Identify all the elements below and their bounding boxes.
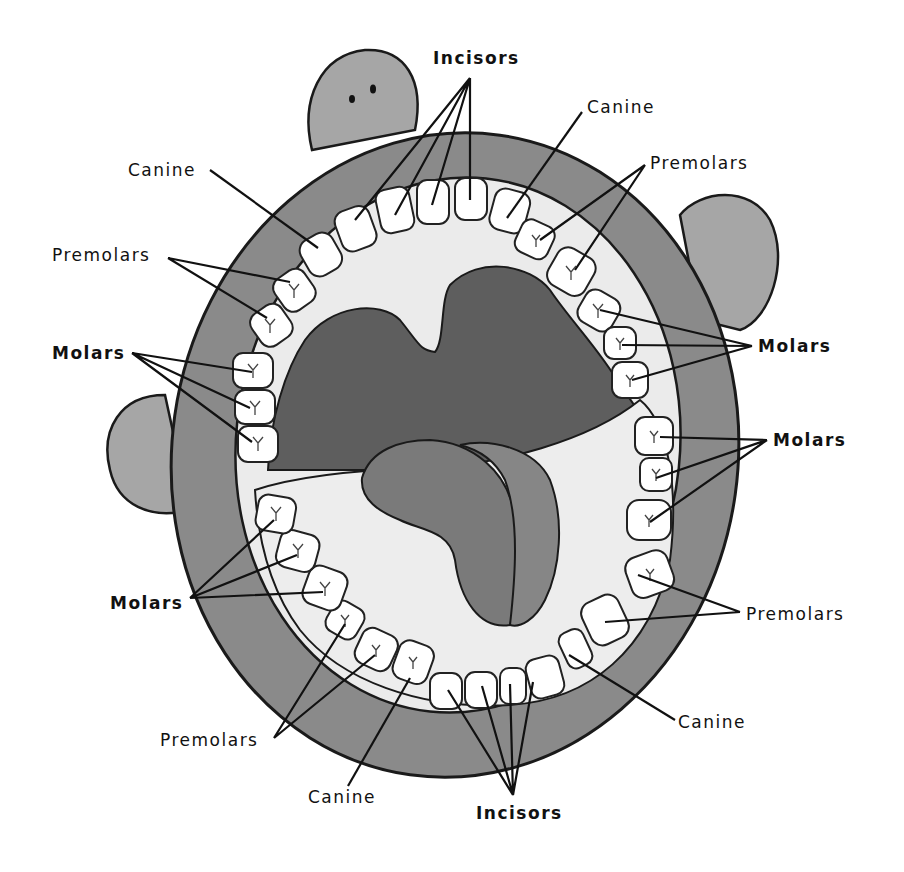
label-lower-left-canine: Canine bbox=[308, 787, 376, 807]
label-upper-right-molars: Molars bbox=[758, 336, 831, 356]
tooth bbox=[500, 668, 526, 704]
tooth bbox=[465, 672, 497, 708]
label-lower-left-molars: Molars bbox=[110, 593, 183, 613]
label-upper-left-canine: Canine bbox=[128, 160, 196, 180]
label-lower-right-premolars: Premolars bbox=[746, 604, 844, 624]
label-upper-left-molars: Molars bbox=[52, 343, 125, 363]
label-upper-right-canine: Canine bbox=[587, 97, 655, 117]
label-upper-left-premolars: Premolars bbox=[52, 245, 150, 265]
label-upper-incisors: Incisors bbox=[433, 48, 520, 68]
label-lower-right-canine: Canine bbox=[678, 712, 746, 732]
mouth-teeth-diagram: Incisors Canine Canine Premolars Premola… bbox=[0, 0, 904, 872]
top-bump bbox=[309, 50, 418, 150]
label-upper-right-premolars: Premolars bbox=[650, 153, 748, 173]
label-lower-left-premolars: Premolars bbox=[160, 730, 258, 750]
label-lower-right-molars: Molars bbox=[773, 430, 846, 450]
label-lower-incisors: Incisors bbox=[476, 803, 563, 823]
